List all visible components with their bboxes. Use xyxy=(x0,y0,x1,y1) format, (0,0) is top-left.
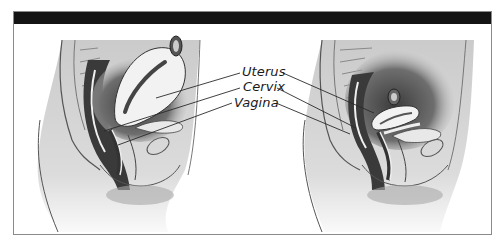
anatomy-illustration xyxy=(0,0,503,251)
left-pelvis xyxy=(38,36,200,232)
label-vagina: Vagina xyxy=(234,95,279,110)
label-cervix: Cervix xyxy=(243,79,285,94)
right-pelvis xyxy=(303,40,474,232)
label-uterus: Uterus xyxy=(242,64,286,79)
